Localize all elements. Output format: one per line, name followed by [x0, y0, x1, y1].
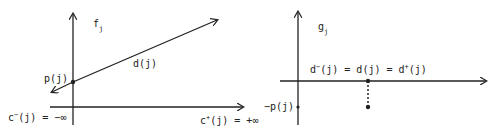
intercept-point	[71, 80, 75, 84]
line-d-arrow-right	[73, 20, 217, 82]
left-panel: fj d(j) p(j) c−(j) = −∞ c+(j) = +∞	[8, 14, 258, 126]
neg-p-point	[296, 105, 299, 108]
right-panel: gj d−(j) = d(j) = d+(j) −p(j)	[264, 12, 486, 125]
intercept-label: p(j)	[44, 73, 68, 84]
diagram: fj d(j) p(j) c−(j) = −∞ c+(j) = +∞ gj d−…	[0, 0, 491, 135]
f-axis-label: fj	[93, 18, 103, 33]
c-plus-label: c+(j) = +∞	[200, 114, 258, 126]
line-label: d(j)	[133, 58, 157, 69]
neg-p-label: −p(j)	[264, 101, 294, 112]
lower-point	[366, 105, 370, 109]
d-equality-label: d−(j) = d(j) = d+(j)	[310, 63, 427, 75]
c-minus-label: c−(j) = −∞	[8, 111, 66, 123]
g-axis-label: gj	[318, 21, 328, 36]
